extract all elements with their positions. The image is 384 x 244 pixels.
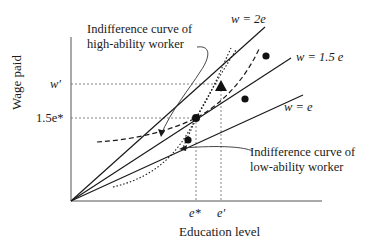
high-curve-annotation-line2: high-ability worker <box>87 38 184 51</box>
high-curve-annotation-line1: Indifference curve of <box>87 23 192 36</box>
line-label-w-2e: w = 2e <box>231 13 266 26</box>
signaling-diagram: Wage paid Education level w′ 1.5e* e* e′… <box>0 0 384 244</box>
triangle-marker <box>215 80 227 91</box>
low-curve-leader <box>183 147 252 151</box>
line-w-2e <box>71 27 265 201</box>
y-tick-1-5e-star: 1.5e* <box>36 112 63 125</box>
line-w-1-5e <box>71 58 291 201</box>
dot-marker-upper <box>262 52 269 59</box>
high-curve-leader <box>161 47 208 135</box>
low-curve-annotation-line2: low-ability worker <box>250 161 343 174</box>
low-curve-arrowhead <box>179 145 187 151</box>
x-axis-label: Education level <box>179 224 260 240</box>
x-tick-e-star: e* <box>189 207 201 220</box>
dot-marker-middle <box>241 95 248 102</box>
x-tick-e-prime: e′ <box>217 207 225 220</box>
y-axis-label: Wage paid <box>9 55 25 110</box>
low-curve-annotation-line1: Indifference curve of <box>250 146 355 159</box>
y-tick-w-prime: w′ <box>50 78 61 91</box>
equilibrium-point-marker <box>192 114 200 122</box>
low-ability-indifference-curve <box>113 50 236 187</box>
dot-marker-lower <box>184 136 191 143</box>
line-label-w-e: w = e <box>284 101 313 114</box>
line-label-w-1-5e: w = 1.5 e <box>296 51 343 64</box>
